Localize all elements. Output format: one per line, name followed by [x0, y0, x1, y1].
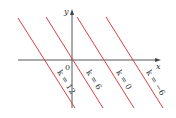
x-axis-label: x — [156, 62, 161, 71]
level-line-k6 — [46, 17, 103, 108]
y-axis-label: y — [63, 7, 69, 16]
label-k6: k = 6 — [84, 68, 103, 91]
level-line-k0 — [77, 17, 134, 108]
y-axis-arrow-icon — [70, 9, 74, 15]
label-k0: k = 0 — [114, 68, 133, 91]
level-curves-diagram: x y 0 k = 12 k = 6 k = 0 k = −6 — [0, 0, 176, 118]
origin-label: 0 — [65, 63, 70, 72]
level-line-k-6 — [106, 17, 163, 108]
